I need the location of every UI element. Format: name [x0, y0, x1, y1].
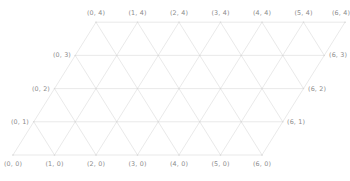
coordinate-label-right-1: (6, 2) — [308, 85, 326, 91]
lattice-figure: (0, 0)(1, 0)(2, 0)(3, 0)(4, 0)(5, 0)(6, … — [0, 0, 350, 181]
lattice-edge — [75, 22, 96, 55]
coordinate-label-left-1: (0, 2) — [32, 85, 50, 91]
coordinate-label-top-6: (6, 4) — [332, 10, 350, 16]
lattice-edge — [241, 122, 262, 155]
lattice-edge — [138, 55, 159, 88]
lattice-edge — [117, 122, 138, 155]
lattice-edge — [158, 55, 179, 88]
lattice-edge — [262, 22, 283, 55]
coordinate-label-right-2: (6, 3) — [329, 52, 347, 58]
coordinate-label-bottom-1: (1, 0) — [45, 161, 63, 167]
lattice-edge — [34, 122, 55, 155]
lattice-edge — [221, 122, 242, 155]
lattice-canvas — [0, 0, 350, 181]
coordinate-label-top-2: (2, 4) — [170, 10, 188, 16]
coordinate-label-bottom-0: (0, 0) — [4, 161, 22, 167]
lattice-edge — [96, 55, 117, 88]
lattice-edge — [158, 89, 179, 122]
lattice-edge — [138, 89, 159, 122]
lattice-edge — [241, 55, 262, 88]
lattice-edge — [283, 55, 304, 88]
lattice-edge — [117, 22, 138, 55]
lattice-edge — [138, 122, 159, 155]
lattice-edge — [200, 55, 221, 88]
lattice-edge — [179, 89, 200, 122]
lattice-edge — [117, 89, 138, 122]
lattice-edge — [304, 22, 325, 55]
lattice-edge — [179, 55, 200, 88]
coordinate-label-bottom-5: (5, 0) — [211, 161, 229, 167]
coordinate-label-right-0: (6, 1) — [287, 119, 305, 125]
coordinate-label-top-3: (3, 4) — [211, 10, 229, 16]
lattice-edge — [75, 122, 96, 155]
lattice-edge — [262, 122, 283, 155]
lattice-edge — [13, 122, 34, 155]
lattice-edge — [221, 22, 242, 55]
coordinate-label-bottom-3: (3, 0) — [128, 161, 146, 167]
lattice-edge — [96, 89, 117, 122]
lattice-edge — [138, 22, 159, 55]
lattice-edge — [34, 89, 55, 122]
coordinate-label-left-0: (0, 1) — [11, 119, 29, 125]
coordinate-label-top-0: (0, 4) — [87, 10, 105, 16]
lattice-edge — [262, 55, 283, 88]
lattice-edge — [221, 55, 242, 88]
lattice-edge — [96, 22, 117, 55]
lattice-edge — [75, 55, 96, 88]
lattice-edge — [179, 22, 200, 55]
lattice-edge — [200, 89, 221, 122]
lattice-edge — [200, 22, 221, 55]
lattice-edge — [75, 89, 96, 122]
lattice-edge — [96, 122, 117, 155]
coordinate-label-bottom-4: (4, 0) — [170, 161, 188, 167]
lattice-edge — [200, 122, 221, 155]
coordinate-label-left-2: (0, 3) — [53, 52, 71, 58]
coordinate-label-top-5: (5, 4) — [294, 10, 312, 16]
lattice-edge — [158, 22, 179, 55]
lattice-edge — [117, 55, 138, 88]
lattice-edge — [55, 89, 76, 122]
coordinate-label-bottom-2: (2, 0) — [87, 161, 105, 167]
lattice-edge — [241, 89, 262, 122]
lattice-edge — [158, 122, 179, 155]
lattice-edge — [283, 22, 304, 55]
lattice-edge — [55, 122, 76, 155]
lattice-edge — [262, 89, 283, 122]
lattice-edge — [179, 122, 200, 155]
coordinate-label-top-4: (4, 4) — [253, 10, 271, 16]
lattice-edge — [55, 55, 76, 88]
coordinate-label-bottom-6: (6, 0) — [253, 161, 271, 167]
lattice-edge — [221, 89, 242, 122]
coordinate-label-top-1: (1, 4) — [128, 10, 146, 16]
lattice-edge — [241, 22, 262, 55]
